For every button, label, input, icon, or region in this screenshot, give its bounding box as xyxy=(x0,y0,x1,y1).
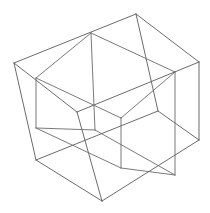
cube-a-edge-v2-v3 xyxy=(77,62,199,112)
cube-b-edge-w4-w5 xyxy=(36,128,95,130)
wireframe-canvas xyxy=(0,0,210,213)
cube-b-edge-w1-w2 xyxy=(91,33,175,72)
cube-b-edge-w0-w1 xyxy=(36,33,91,78)
cube-b-group xyxy=(36,33,175,175)
wireframe-figure xyxy=(0,0,210,213)
cube-b-edge-w5-w6 xyxy=(95,130,175,175)
cube-b-edge-w7-w4 xyxy=(36,128,121,168)
cube-b-edge-w3-w0 xyxy=(36,78,121,118)
cube-a-edge-v0-v1 xyxy=(14,14,136,63)
cube-a-edge-v6-v7 xyxy=(102,140,199,201)
cube-b-edge-w1-w5 xyxy=(91,33,95,130)
cube-b-edge-w2-w3 xyxy=(121,72,175,118)
cube-a-edge-v4-v5 xyxy=(36,111,158,160)
cube-b-edge-w6-w7 xyxy=(121,168,175,175)
cube-a-edge-v5-v6 xyxy=(158,111,199,140)
